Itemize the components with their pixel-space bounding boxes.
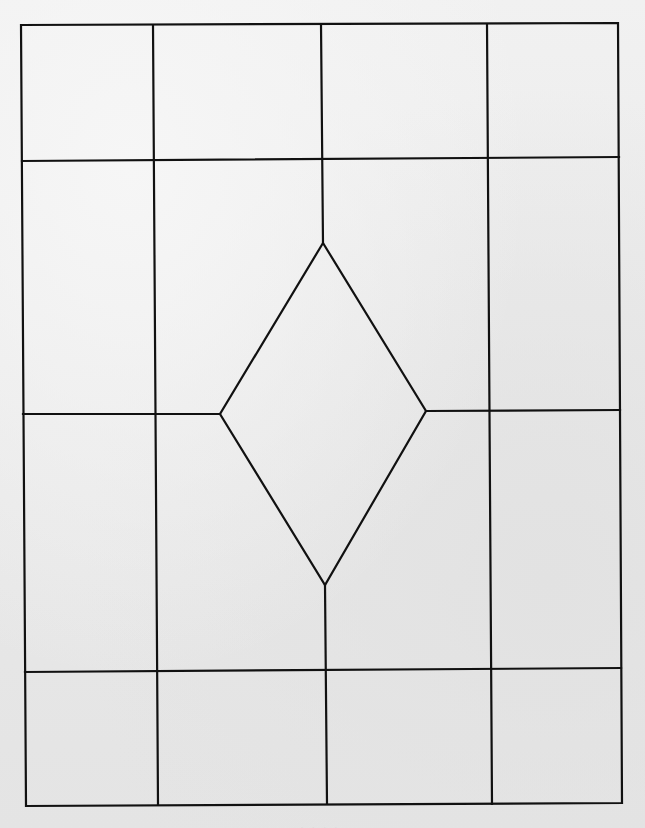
vertical-line-3 [487,24,492,804]
vertical-line-center-top [321,24,323,243]
page: · · · · [0,0,645,828]
central-diamond [220,243,426,585]
horizontal-line-2-right [426,410,620,411]
horizontal-line-1 [22,157,619,161]
cutoff-footer-text: · · · · [300,822,360,828]
vertical-line-center-bottom [325,585,327,804]
grid-diamond-diagram [0,0,645,828]
horizontal-line-3 [25,668,621,672]
